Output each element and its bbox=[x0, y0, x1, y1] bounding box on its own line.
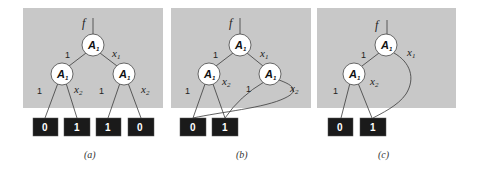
panel-a-terminal-2: 1 bbox=[96, 118, 121, 136]
panel-b-edge-label-left-t0: 1 bbox=[185, 86, 190, 96]
panel-a-edge-label-right-t2: 1 bbox=[99, 86, 104, 96]
panel-c-edge-label-root-left: 1 bbox=[361, 50, 366, 60]
panel-a: f 1 x1 1 x2 1 x2 A1 A1 A1 0 1 bbox=[23, 8, 163, 161]
panel-a-node-left: A1 bbox=[51, 63, 73, 85]
panel-b-node-root: A1 bbox=[229, 34, 251, 56]
panel-a-node-root: A1 bbox=[82, 34, 104, 56]
svg-text:1: 1 bbox=[370, 122, 376, 133]
panel-c: f 1 x1 1 x2 A1 A1 0 1 (c) bbox=[317, 8, 456, 161]
panel-b-terminal-1: 1 bbox=[212, 118, 238, 136]
panel-b-edge-label-root-left: 1 bbox=[213, 50, 218, 60]
svg-text:1: 1 bbox=[222, 122, 228, 133]
panel-c-edge-label-left-t0: 1 bbox=[333, 86, 338, 96]
decision-diagram-figure: f 1 x1 1 x2 1 x2 A1 A1 A1 0 1 bbox=[0, 0, 478, 176]
panel-b-node-left: A1 bbox=[198, 63, 220, 85]
panel-a-terminal-0: 0 bbox=[33, 118, 58, 136]
svg-text:0: 0 bbox=[190, 122, 196, 133]
panel-c-terminal-1: 1 bbox=[360, 118, 386, 136]
panel-b-node-right: A1 bbox=[259, 63, 281, 85]
panel-a-terminal-1: 1 bbox=[64, 118, 90, 136]
svg-text:0: 0 bbox=[137, 122, 143, 133]
svg-text:0: 0 bbox=[337, 122, 343, 133]
panel-c-terminal-0: 0 bbox=[328, 118, 353, 136]
panel-b-terminal-0: 0 bbox=[180, 118, 206, 136]
panel-b-caption: (b) bbox=[236, 149, 248, 161]
panel-a-edge-label-root-left: 1 bbox=[65, 50, 70, 60]
svg-text:0: 0 bbox=[42, 122, 48, 133]
svg-text:1: 1 bbox=[105, 122, 111, 133]
panel-b: f 1 x1 1 x2 1 x2 A1 A1 A1 0 1 (b) bbox=[171, 8, 311, 161]
panel-a-terminal-3: 0 bbox=[128, 118, 154, 136]
panel-a-edge-label-left-t0: 1 bbox=[37, 86, 42, 96]
panel-c-caption: (c) bbox=[378, 149, 390, 161]
svg-text:1: 1 bbox=[74, 122, 80, 133]
panel-c-node-left: A1 bbox=[343, 63, 365, 85]
panel-a-node-right: A1 bbox=[113, 63, 135, 85]
panel-c-node-root: A1 bbox=[375, 34, 397, 56]
panel-b-edge-label-right-t1: 1 bbox=[246, 84, 251, 94]
panel-a-caption: (a) bbox=[84, 149, 96, 161]
